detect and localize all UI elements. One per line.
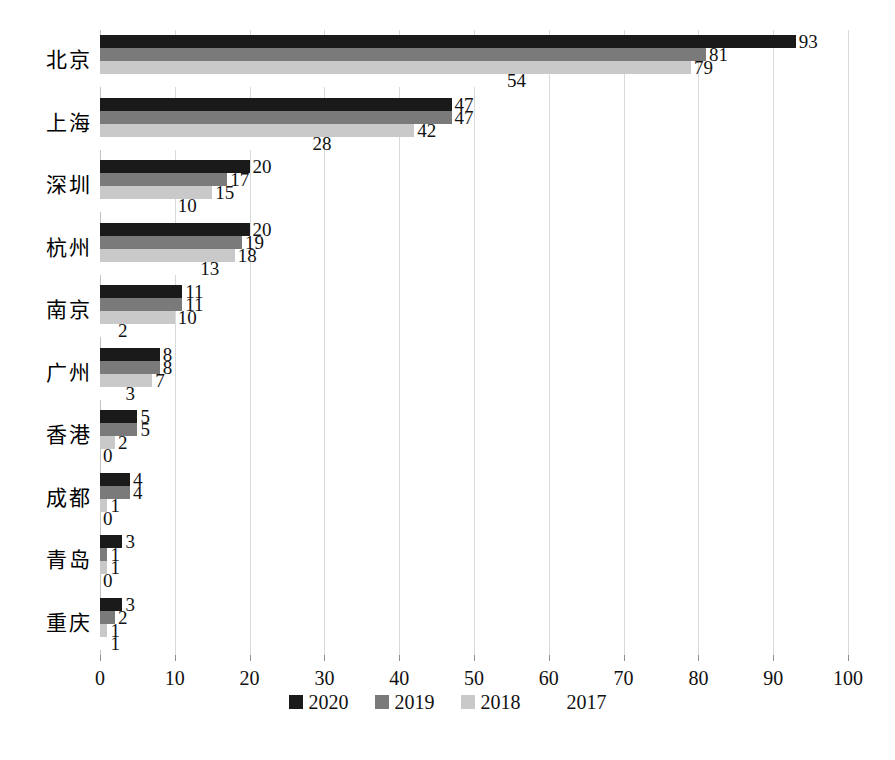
bar-2018 (100, 624, 107, 637)
bar-2017 (100, 637, 107, 650)
bar-value-label: 3 (125, 532, 135, 551)
bar-2019 (100, 48, 706, 61)
category-group: 8873 (100, 343, 848, 406)
bar-2017 (100, 324, 115, 337)
x-tick-label-100: 100 (818, 667, 878, 689)
bar-2020 (100, 98, 452, 111)
bar-2020 (100, 35, 796, 48)
figure-caption (0, 738, 895, 758)
legend-swatch-2017 (547, 695, 561, 709)
x-tick-label-80: 80 (668, 667, 728, 689)
x-tickmark-10 (175, 655, 176, 661)
bar-value-label: 79 (694, 58, 713, 77)
bar-value-label: 2 (118, 433, 128, 452)
bar-2017 (100, 262, 197, 275)
bar-value-label: 13 (200, 259, 219, 278)
bar-2017 (100, 199, 175, 212)
category-label-5: 广州 (0, 363, 92, 384)
category-label-8: 青岛 (0, 550, 92, 571)
legend-swatch-2018 (461, 695, 475, 709)
plot-area: 9381795447474228201715102019181311111028… (100, 30, 848, 655)
bar-value-label: 93 (799, 32, 818, 51)
bar-2018 (100, 124, 414, 137)
legend-swatch-2019 (375, 695, 389, 709)
x-tick-label-10: 10 (145, 667, 205, 689)
category-group: 1111102 (100, 280, 848, 343)
bar-2017 (100, 387, 122, 400)
bar-2018 (100, 311, 175, 324)
category-group: 20171510 (100, 155, 848, 218)
x-tickmark-60 (549, 655, 550, 661)
bar-value-label: 4 (133, 483, 143, 502)
category-group: 93817954 (100, 30, 848, 93)
bar-2020 (100, 160, 250, 173)
x-tick-label-60: 60 (519, 667, 579, 689)
legend-item-2018[interactable]: 2018 (461, 692, 521, 712)
x-tick-label-30: 30 (294, 667, 354, 689)
bar-value-label: 3 (125, 384, 135, 403)
x-tick-label-70: 70 (594, 667, 654, 689)
bar-value-label: 1 (110, 634, 120, 653)
bar-value-label: 10 (178, 308, 197, 327)
chart-legend: 2020201920182017 (0, 692, 895, 712)
bar-value-label: 54 (507, 71, 526, 90)
x-tickmark-0 (100, 655, 101, 661)
bar-2020 (100, 223, 250, 236)
bar-chart: 9381795447474228201715102019181311111028… (0, 0, 895, 760)
x-tickmark-100 (848, 655, 849, 661)
category-label-1: 上海 (0, 113, 92, 134)
category-group: 3211 (100, 593, 848, 656)
bar-2017 (100, 74, 504, 87)
category-label-7: 成都 (0, 488, 92, 509)
bar-2019 (100, 236, 242, 249)
category-group: 4410 (100, 468, 848, 531)
bar-value-label: 28 (312, 134, 331, 153)
bar-value-label: 0 (103, 571, 113, 590)
bar-2019 (100, 298, 182, 311)
bar-value-label: 2 (118, 321, 128, 340)
x-tick-label-90: 90 (743, 667, 803, 689)
legend-label-2018: 2018 (481, 692, 521, 712)
x-tickmark-40 (399, 655, 400, 661)
x-tick-label-50: 50 (444, 667, 504, 689)
bar-2020 (100, 410, 137, 423)
category-group: 5520 (100, 405, 848, 468)
legend-item-2017[interactable]: 2017 (547, 692, 607, 712)
category-label-2: 深圳 (0, 175, 92, 196)
category-group: 3110 (100, 530, 848, 593)
x-tickmark-90 (773, 655, 774, 661)
bar-value-label: 18 (238, 246, 257, 265)
legend-item-2019[interactable]: 2019 (375, 692, 435, 712)
category-label-3: 杭州 (0, 238, 92, 259)
gridline-100 (848, 30, 849, 655)
x-tickmark-80 (698, 655, 699, 661)
x-tick-label-20: 20 (220, 667, 280, 689)
legend-swatch-2020 (289, 695, 303, 709)
bar-value-label: 47 (455, 108, 474, 127)
bar-2017 (100, 137, 309, 150)
category-label-0: 北京 (0, 50, 92, 71)
bar-2020 (100, 473, 130, 486)
bar-value-label: 7 (155, 371, 165, 390)
category-label-4: 南京 (0, 300, 92, 321)
legend-item-2020[interactable]: 2020 (289, 692, 349, 712)
bar-value-label: 0 (103, 446, 113, 465)
category-label-6: 香港 (0, 425, 92, 446)
bar-2020 (100, 285, 182, 298)
bar-value-label: 5 (140, 420, 150, 439)
bar-2018 (100, 61, 691, 74)
x-tick-label-0: 0 (70, 667, 130, 689)
bar-2019 (100, 548, 107, 561)
bar-2019 (100, 361, 160, 374)
bar-2019 (100, 173, 227, 186)
x-tickmark-70 (624, 655, 625, 661)
category-group: 47474228 (100, 93, 848, 156)
bar-value-label: 42 (417, 121, 436, 140)
bar-value-label: 10 (178, 196, 197, 215)
bar-2020 (100, 348, 160, 361)
bar-value-label: 15 (215, 183, 234, 202)
x-tick-label-40: 40 (369, 667, 429, 689)
legend-label-2017: 2017 (567, 692, 607, 712)
x-tickmark-20 (250, 655, 251, 661)
category-label-9: 重庆 (0, 613, 92, 634)
